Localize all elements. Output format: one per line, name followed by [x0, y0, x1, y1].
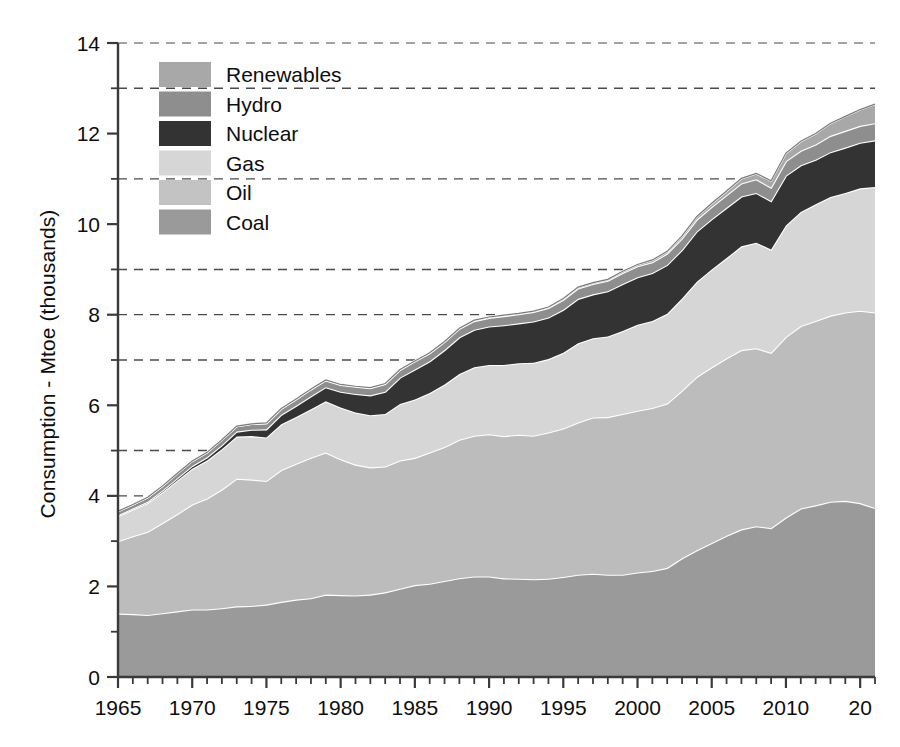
- y-tick-label: 4: [88, 484, 100, 507]
- x-tick-label: 1980: [317, 696, 364, 719]
- plot-area-wrapper: 02468101214 1965197019751980198519901995…: [0, 0, 900, 747]
- y-tick-label: 6: [88, 394, 100, 417]
- y-axis-ticks: 02468101214: [77, 32, 118, 689]
- y-tick-label: 12: [77, 122, 100, 145]
- legend-swatch-nuclear[interactable]: [159, 121, 211, 146]
- legend-swatch-renewables[interactable]: [159, 62, 211, 87]
- y-tick-label: 2: [88, 575, 100, 598]
- stacked-area-plot: 02468101214 1965197019751980198519901995…: [0, 0, 900, 747]
- energy-consumption-chart: Consumption - Mtoe (thousands) 024681012…: [0, 0, 900, 747]
- x-tick-label: 1990: [466, 696, 513, 719]
- x-tick-label: 2000: [614, 696, 661, 719]
- x-tick-label: 20: [848, 696, 871, 719]
- legend-swatch-hydro[interactable]: [159, 92, 211, 117]
- y-tick-label: 10: [77, 213, 100, 236]
- x-axis-ticks: 1965197019751980198519901995200020052010…: [95, 677, 875, 719]
- x-tick-label: 1970: [169, 696, 216, 719]
- legend-swatch-gas[interactable]: [159, 151, 211, 176]
- x-tick-label: 2010: [763, 696, 810, 719]
- legend-swatch-coal[interactable]: [159, 210, 211, 235]
- y-tick-label: 0: [88, 666, 100, 689]
- legend-label-hydro: Hydro: [226, 93, 282, 116]
- x-tick-label: 1975: [243, 696, 290, 719]
- legend-label-oil: Oil: [226, 181, 252, 204]
- legend-label-coal: Coal: [226, 211, 269, 234]
- x-tick-label: 1965: [95, 696, 142, 719]
- x-tick-label: 1985: [392, 696, 439, 719]
- legend-label-gas: Gas: [226, 152, 265, 175]
- legend-swatch-oil[interactable]: [159, 180, 211, 205]
- x-tick-label: 2005: [688, 696, 735, 719]
- y-tick-label: 14: [77, 32, 101, 55]
- legend-label-nuclear: Nuclear: [226, 122, 298, 145]
- legend-label-renewables: Renewables: [226, 63, 342, 86]
- x-tick-label: 1995: [540, 696, 587, 719]
- y-tick-label: 8: [88, 303, 100, 326]
